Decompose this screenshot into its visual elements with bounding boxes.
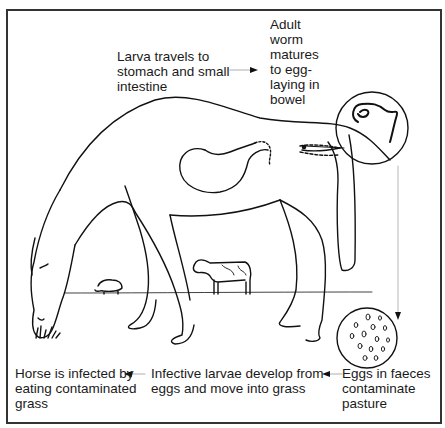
arrow-right-icon: [250, 67, 258, 73]
step-eggs-in-faeces: Eggs in faeces contaminate pasture: [342, 366, 431, 411]
horse-belly: [170, 200, 280, 216]
grass-tuft: [36, 326, 60, 338]
horse-head: [31, 190, 75, 338]
eggs: [350, 314, 389, 360]
horse-nostril: [38, 318, 44, 320]
worm-magnifier-circle: [336, 92, 408, 164]
step-horse-infected: Horse is infected by eating contaminated…: [15, 366, 137, 411]
step-larva-travels: Larva travels to stomach and small intes…: [117, 49, 230, 94]
sheep: [95, 280, 122, 294]
small-intestine: [255, 142, 271, 165]
stomach: [180, 149, 268, 193]
worm: [353, 104, 397, 142]
step-adult-worm: Adult worm matures to egg- laying in bow…: [270, 17, 320, 107]
step-infective-larvae: Infective larvae develop from eggs and m…: [151, 366, 324, 396]
horse-eye: [40, 264, 48, 268]
